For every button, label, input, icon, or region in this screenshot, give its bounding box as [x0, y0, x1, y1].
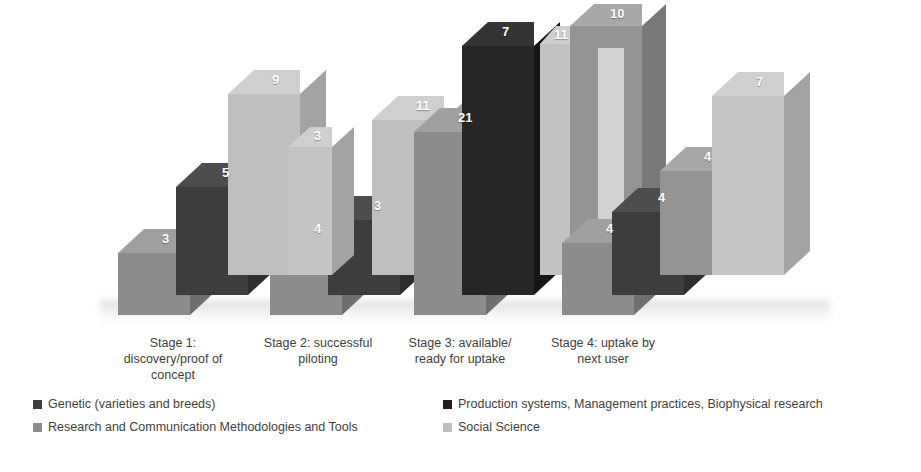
bar-value-label: 7 — [756, 74, 763, 89]
legend-swatch-icon — [33, 423, 42, 432]
bar-top-face — [712, 72, 784, 96]
x-axis-label-line: Stage 1: — [98, 335, 248, 351]
bar-value-label: 3 — [314, 128, 321, 143]
bar-value-label: 9 — [272, 72, 279, 87]
bar-value-label: 21 — [458, 110, 472, 125]
bar-stage3-genetic: 7 — [462, 46, 534, 295]
bar-value-label: 4 — [704, 149, 711, 164]
legend-label: Social Science — [458, 419, 540, 435]
legend-item-social-science[interactable]: Social Science — [443, 419, 540, 435]
bar-top-face — [228, 70, 300, 94]
bar-value-label: 10 — [610, 6, 624, 21]
legend-label: Research and Communication Methodologies… — [48, 419, 358, 435]
bar-chart-3d: 3 5 4 3 9 3 11 — [0, 0, 921, 330]
x-axis-label-line: discovery/proof of — [98, 351, 248, 367]
x-axis-label-line: next user — [528, 351, 678, 367]
bar-stage4-light: 7 — [712, 96, 784, 275]
x-axis-label-line: Stage 4: uptake by — [528, 335, 678, 351]
x-axis-label-stage3: Stage 3: available/ ready for uptake — [385, 335, 535, 367]
bar-value-label: 4 — [658, 190, 665, 205]
legend-swatch-icon — [443, 400, 452, 409]
bar-value-label: 3 — [374, 198, 381, 213]
bar-front-face — [712, 96, 784, 275]
legend-swatch-icon — [443, 423, 452, 432]
legend-label: Production systems, Management practices… — [458, 396, 823, 412]
bar-value-label: 5 — [222, 165, 229, 180]
x-axis-label-line: Stage 3: available/ — [385, 335, 535, 351]
bar-value-label: 11 — [554, 27, 568, 42]
x-axis-label-line: ready for uptake — [385, 351, 535, 367]
x-axis-label-stage4: Stage 4: uptake by next user — [528, 335, 678, 367]
x-axis-label-stage2: Stage 2: successful piloting — [243, 335, 393, 367]
x-axis-labels: Stage 1: discovery/proof of concept Stag… — [0, 331, 921, 393]
bar-side-face — [784, 72, 810, 275]
legend-swatch-icon — [33, 400, 42, 409]
x-axis-label-stage1: Stage 1: discovery/proof of concept — [98, 335, 248, 383]
bar-side-face — [332, 127, 354, 275]
bar-value-label: 4 — [314, 221, 321, 236]
legend-item-genetic[interactable]: Genetic (varieties and breeds) — [33, 396, 215, 412]
bar-stage2-production: 3 — [288, 147, 332, 275]
bar-front-face — [462, 46, 534, 295]
bar-value-label: 11 — [416, 98, 430, 113]
bar-front-face — [288, 147, 332, 275]
figure-caption-strip — [0, 452, 921, 472]
x-axis-label-line: Stage 2: successful — [243, 335, 393, 351]
bar-value-label: 4 — [606, 221, 613, 236]
x-axis-label-line: concept — [98, 367, 248, 383]
bar-top-face — [570, 4, 642, 26]
legend-item-production-systems[interactable]: Production systems, Management practices… — [443, 396, 823, 412]
legend-item-research-communication[interactable]: Research and Communication Methodologies… — [33, 419, 358, 435]
bar-value-label: 3 — [162, 231, 169, 246]
bar-top-face — [462, 22, 534, 46]
chart-legend: Genetic (varieties and breeds) Productio… — [0, 396, 921, 444]
bar-value-label: 7 — [502, 24, 509, 39]
x-axis-label-line: piloting — [243, 351, 393, 367]
legend-label: Genetic (varieties and breeds) — [48, 396, 215, 412]
